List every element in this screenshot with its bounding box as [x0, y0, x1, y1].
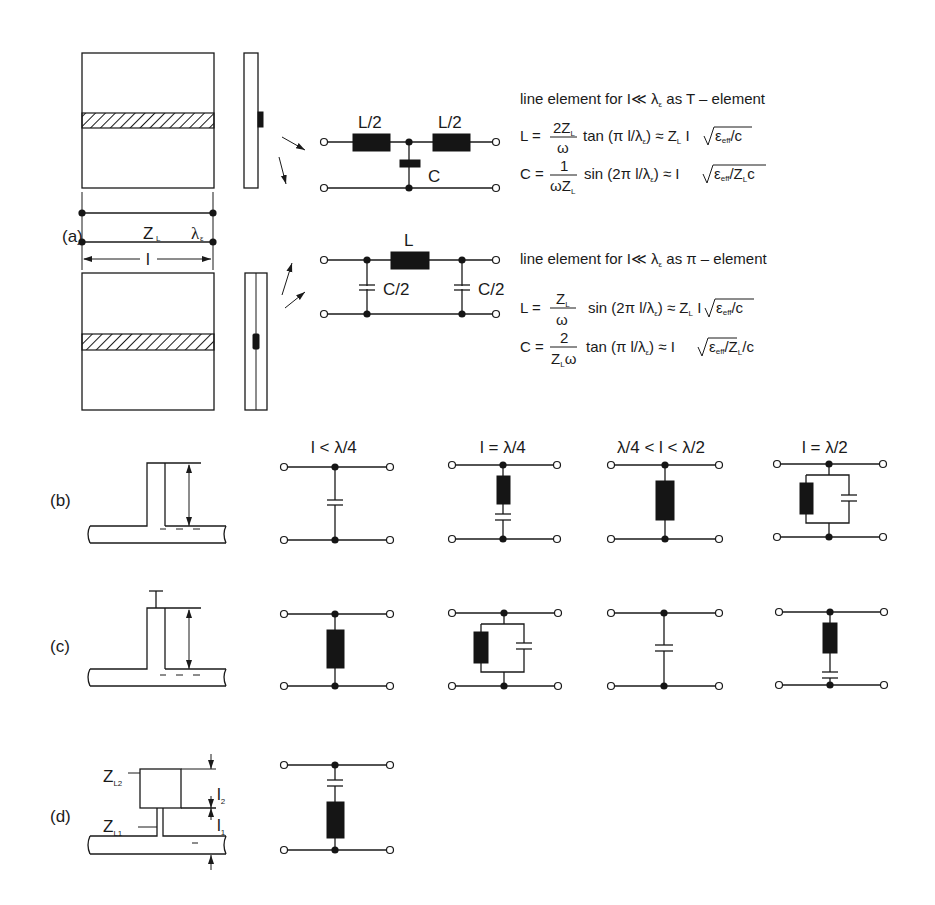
impedance-label: Z: [143, 224, 153, 243]
svg-text:ω: ω: [556, 311, 568, 328]
svg-text:ZLω: ZLω: [551, 350, 577, 369]
column-header-1: l < λ/4: [311, 438, 357, 457]
length-label: l: [146, 250, 150, 269]
pi-capacitor-label-left: C/2: [383, 280, 409, 299]
t-element-circuit: L/2 L/2 C: [321, 113, 500, 192]
stepped-stub-layout: ZL2 ZL1 l2 l1: [88, 754, 226, 870]
pi-element-circuit: L C/2 C/2: [321, 231, 505, 318]
svg-text:sin (2π l/λε) ≈ I: sin (2π l/λε) ≈ I: [584, 165, 680, 184]
l1-label: l1: [217, 816, 226, 837]
z-l1-label: ZL1: [103, 817, 123, 838]
l2-label: l2: [217, 785, 226, 806]
svg-text:εeff/c: εeff/c: [715, 127, 743, 145]
c-circuit-parallel-lc: [449, 609, 562, 689]
wavelength-label: λ: [191, 224, 200, 243]
b-circuit-capacitor: [281, 463, 394, 543]
pi-capacitor-label-right: C/2: [478, 280, 504, 299]
column-headers: l < λ/4 l = λ/4 λ/4 < l < λ/2 l = λ/2: [311, 438, 848, 457]
svg-text:tan (π l/λε) ≈ I: tan (π l/λε) ≈ I: [586, 338, 675, 357]
b-circuit-series-lc: [449, 461, 561, 542]
mapping-arrows: [279, 137, 305, 308]
open-stub-layout: [88, 463, 226, 543]
shorted-stub-layout: [88, 591, 226, 686]
svg-text:2: 2: [560, 329, 568, 346]
svg-text:ω: ω: [557, 139, 569, 156]
c-circuit-series-lc: [776, 608, 888, 688]
svg-text:sin (2π l/λε) ≈ ZL I: sin (2π l/λε) ≈ ZL I: [588, 299, 701, 318]
inductor-label-right: L/2: [438, 113, 462, 132]
microstrip-top-view-lower: [82, 273, 214, 410]
svg-text:C =: C =: [520, 165, 544, 182]
svg-text:L: L: [156, 234, 161, 243]
svg-text:εeff/ZL/c: εeff/ZL/c: [709, 338, 754, 357]
svg-text:2ZL: 2ZL: [553, 119, 576, 138]
pi-element-formulas: line element for I≪ λε as π – element L …: [520, 250, 768, 369]
svg-text:L =: L =: [520, 127, 541, 144]
panel-d-label: (d): [50, 807, 71, 826]
panel-c: (c): [50, 591, 226, 686]
column-header-3: λ/4 < l < λ/2: [617, 438, 705, 457]
b-circuit-parallel-lc: [774, 460, 887, 540]
d-circuit-series-cl: [281, 761, 394, 853]
microstrip-top-view-upper: [82, 53, 214, 188]
z-l2-label: ZL2: [103, 767, 123, 788]
transmission-line-element: Z L λ ε l: [78, 192, 216, 270]
svg-text:ε: ε: [200, 234, 204, 243]
column-header-4: l = λ/2: [802, 438, 848, 457]
svg-text:ZL: ZL: [556, 290, 570, 309]
panel-d: (d) ZL2 ZL1 l2 l1: [50, 754, 226, 870]
column-header-2: l = λ/4: [480, 438, 526, 457]
stub-equivalent-circuits-figure: (a) Z L λ ε l: [0, 0, 935, 905]
inductor-label-left: L/2: [358, 113, 382, 132]
microstrip-side-view-upper: [244, 53, 263, 188]
t-element-formulas: line element for I≪ λε as T – element L …: [520, 90, 766, 196]
b-circuit-inductor: [608, 461, 723, 542]
c-circuit-inductor: [281, 610, 394, 689]
svg-text:1: 1: [560, 157, 568, 174]
svg-text:C =: C =: [520, 338, 544, 355]
panel-b: (b): [50, 463, 226, 543]
svg-text:L =: L =: [520, 299, 541, 316]
svg-text:tan (π l/λε) ≈ ZL I: tan (π l/λε) ≈ ZL I: [583, 127, 690, 146]
svg-text:εeff/ZLc: εeff/ZLc: [714, 165, 755, 184]
microstrip-side-view-lower: [245, 273, 267, 410]
panel-c-label: (c): [50, 637, 70, 656]
svg-text:εeff/c: εeff/c: [716, 299, 744, 317]
pi-inductor-label: L: [404, 231, 413, 250]
panel-a: (a) Z L λ ε l: [62, 53, 768, 410]
pi-element-title: line element for I≪ λε as π – element: [520, 250, 768, 269]
c-circuit-capacitor: [608, 609, 723, 689]
svg-text:ωZL: ωZL: [550, 177, 576, 196]
t-element-title: line element for I≪ λε as T – element: [520, 90, 766, 109]
capacitor-label: C: [428, 167, 440, 186]
panel-b-label: (b): [50, 491, 71, 510]
